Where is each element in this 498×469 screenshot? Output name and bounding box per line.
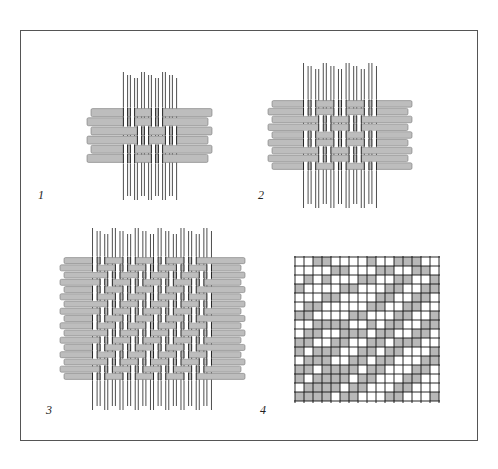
weave-panel-3 xyxy=(60,228,245,410)
weave-panel-1 xyxy=(87,72,212,200)
weave-illustrations xyxy=(0,0,498,469)
panel-label-4: 4 xyxy=(260,403,266,418)
weave-panel-2 xyxy=(268,63,412,208)
weave-draft-grid xyxy=(294,256,440,403)
panel-label-3: 3 xyxy=(46,403,52,418)
panel-label-1: 1 xyxy=(38,188,44,203)
panel-label-2: 2 xyxy=(258,188,264,203)
